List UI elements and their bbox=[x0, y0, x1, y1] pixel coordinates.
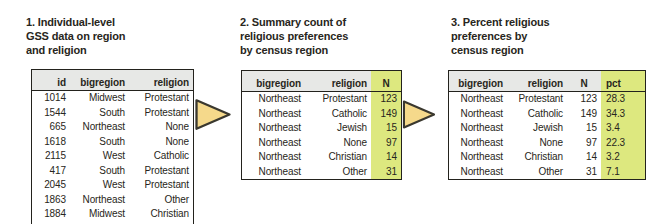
title-line: 2. Summary count of bbox=[240, 15, 348, 29]
cell: Other bbox=[507, 164, 567, 179]
summary-count-table: bigregionreligionNNortheastProtestant123… bbox=[241, 70, 402, 180]
table-row: NortheastProtestant123 bbox=[242, 91, 402, 106]
cell: Protestant bbox=[507, 91, 567, 106]
cell: Protestant bbox=[305, 91, 371, 106]
cell: Jewish bbox=[507, 121, 567, 136]
cell: West bbox=[70, 149, 129, 164]
cell: Protestant bbox=[129, 221, 194, 224]
title-line: 1. Individual-level bbox=[26, 15, 125, 29]
cell: Midwest bbox=[70, 207, 129, 222]
cell: 123 bbox=[371, 91, 402, 106]
panel-1-title: 1. Individual-levelGSS data on regionand… bbox=[26, 15, 125, 57]
table-row: NortheastChristian143.2 bbox=[449, 150, 646, 165]
column-header-bigregion: bigregion bbox=[449, 71, 508, 92]
cell: None bbox=[129, 134, 194, 149]
table-row: 1618SouthNone bbox=[32, 134, 194, 149]
cell: Northeast bbox=[242, 91, 306, 106]
table-row: 2115WestCatholic bbox=[32, 149, 194, 164]
header-row: bigregionreligionN bbox=[242, 71, 402, 92]
cell: 15 bbox=[567, 121, 601, 136]
cell: Christian bbox=[305, 150, 371, 165]
title-line: and religion bbox=[26, 43, 125, 57]
table-row: NortheastNone9722.3 bbox=[449, 135, 646, 150]
percent-table: bigregionreligionNpctNortheastProtestant… bbox=[448, 70, 646, 180]
table-row: NortheastJewish153.4 bbox=[449, 121, 646, 136]
column-header-id: id bbox=[32, 70, 71, 91]
cell: Northeast bbox=[242, 135, 306, 150]
cell: Northeast bbox=[449, 106, 508, 121]
cell: Northeast bbox=[70, 192, 129, 207]
cell: Northeast bbox=[449, 135, 508, 150]
cell: Catholic bbox=[507, 106, 567, 121]
header-row: idbigregionreligion bbox=[32, 70, 194, 91]
column-header-religion: religion bbox=[507, 71, 567, 92]
table-row: NortheastJewish15 bbox=[242, 121, 402, 136]
cell: 28.3 bbox=[601, 91, 646, 106]
cell: 97 bbox=[371, 135, 402, 150]
cell: 1544 bbox=[32, 105, 71, 120]
cell: 31 bbox=[371, 164, 402, 179]
cell: West bbox=[70, 178, 129, 193]
cell: 665 bbox=[32, 120, 71, 135]
flow-arrow-icon bbox=[401, 99, 437, 130]
cell: South bbox=[70, 163, 129, 178]
cell: Jewish bbox=[305, 121, 371, 136]
panel-2-title: 2. Summary count ofreligious preferences… bbox=[240, 15, 348, 57]
column-header-bigregion: bigregion bbox=[242, 71, 306, 92]
cell: South bbox=[70, 134, 129, 149]
cell: 7.1 bbox=[601, 164, 646, 179]
cell: 14 bbox=[567, 150, 601, 165]
cell: 1618 bbox=[32, 134, 71, 149]
cell: 2115 bbox=[32, 149, 71, 164]
cell: 123 bbox=[567, 91, 601, 106]
cell: 1884 bbox=[32, 207, 71, 222]
cell: South bbox=[70, 221, 129, 224]
cell: Northeast bbox=[70, 120, 129, 135]
cell: 1628 bbox=[32, 221, 71, 224]
cell: 15 bbox=[371, 121, 402, 136]
table-row: NortheastProtestant12328.3 bbox=[449, 91, 646, 106]
cell: Midwest bbox=[70, 90, 129, 105]
title-line: by census region bbox=[240, 43, 348, 57]
cell: 97 bbox=[567, 135, 601, 150]
title-line: GSS data on region bbox=[26, 29, 125, 43]
cell: Northeast bbox=[449, 91, 508, 106]
column-header-n: N bbox=[567, 71, 601, 92]
cell: 3.4 bbox=[601, 121, 646, 136]
cell: Other bbox=[305, 164, 371, 179]
cell: 31 bbox=[567, 164, 601, 179]
cell: 1863 bbox=[32, 192, 71, 207]
cell: Northeast bbox=[242, 121, 306, 136]
cell: Christian bbox=[507, 150, 567, 165]
cell: 149 bbox=[371, 106, 402, 121]
cell: Northeast bbox=[449, 150, 508, 165]
column-header-religion: religion bbox=[305, 71, 371, 92]
column-header-pct: pct bbox=[601, 71, 646, 92]
cell: Protestant bbox=[129, 105, 194, 120]
cell: 14 bbox=[371, 150, 402, 165]
column-header-bigregion: bigregion bbox=[70, 70, 129, 91]
table-row: NortheastChristian14 bbox=[242, 150, 402, 165]
cell: 2045 bbox=[32, 178, 71, 193]
cell: Protestant bbox=[129, 90, 194, 105]
table-row: 417SouthProtestant bbox=[32, 163, 194, 178]
cell: None bbox=[507, 135, 567, 150]
cell: Northeast bbox=[449, 121, 508, 136]
figure-canvas: 1. Individual-levelGSS data on regionand… bbox=[0, 0, 655, 224]
cell: Catholic bbox=[129, 149, 194, 164]
table-row: 665NortheastNone bbox=[32, 120, 194, 135]
title-line: census region bbox=[451, 43, 549, 57]
cell: Other bbox=[129, 192, 194, 207]
cell: Northeast bbox=[449, 164, 508, 179]
header-row: bigregionreligionNpct bbox=[449, 71, 646, 92]
table-row: NortheastCatholic149 bbox=[242, 106, 402, 121]
cell: Northeast bbox=[242, 106, 306, 121]
table-row: 1863NortheastOther bbox=[32, 192, 194, 207]
cell: Protestant bbox=[129, 163, 194, 178]
cell: Northeast bbox=[242, 164, 306, 179]
panel-3-title: 3. Percent religiouspreferences bycensus… bbox=[451, 15, 549, 57]
table-row: 1544SouthProtestant bbox=[32, 105, 194, 120]
table-row: 1014MidwestProtestant bbox=[32, 90, 194, 105]
table-row: 1628SouthProtestant bbox=[32, 221, 194, 224]
column-header-religion: religion bbox=[129, 70, 194, 91]
